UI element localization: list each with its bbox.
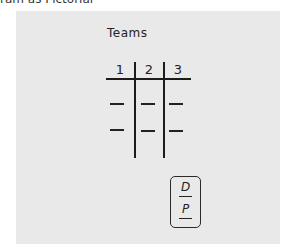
- blank-cell-r1-c2: [141, 103, 155, 105]
- cropped-caption: ram as Pictorial: [0, 0, 93, 6]
- paper-background: [16, 11, 280, 244]
- blank-line-d: [179, 196, 192, 197]
- blank-cell-r2-c1: [110, 129, 124, 131]
- diagram-title: Teams: [107, 26, 147, 40]
- column-header-1: 1: [110, 62, 130, 77]
- blank-line-p: [179, 218, 192, 219]
- blank-cell-r1-c1: [110, 103, 124, 105]
- blank-cell-r1-c3: [169, 103, 183, 105]
- column-header-2: 2: [139, 62, 159, 77]
- blank-cell-r2-c2: [141, 130, 155, 132]
- blank-cell-r2-c3: [169, 130, 183, 132]
- letter-d: D: [171, 180, 200, 194]
- fraction-box: D P: [170, 176, 201, 228]
- table-header-divider: [106, 78, 191, 80]
- column-header-3: 3: [168, 62, 188, 77]
- table-column-divider-1: [134, 62, 136, 158]
- table-column-divider-2: [163, 62, 165, 158]
- letter-p: P: [171, 202, 200, 216]
